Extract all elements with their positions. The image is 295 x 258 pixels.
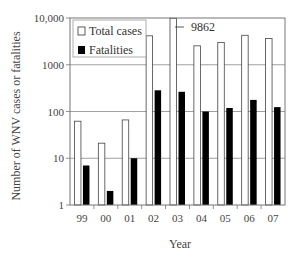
annotation-label: 9862 <box>191 20 215 34</box>
legend-label-total-cases: Total cases <box>89 24 142 38</box>
bar-fatalities <box>83 165 90 205</box>
bar-fatalities <box>202 112 209 206</box>
bar-total-cases <box>218 42 225 205</box>
bar-fatalities <box>131 158 138 205</box>
x-tick-label: 07 <box>268 212 280 224</box>
bar-total-cases <box>170 18 177 205</box>
y-tick-label: 10 <box>53 152 65 164</box>
bar-fatalities <box>226 108 233 205</box>
x-tick-label: 00 <box>100 212 112 224</box>
y-tick-label: 100 <box>48 106 65 118</box>
x-tick-label: 04 <box>196 212 208 224</box>
legend-swatch-total-cases <box>78 27 85 35</box>
bar-fatalities <box>274 107 281 205</box>
chart: 110100100010,000 990001020304050607 Tota… <box>0 0 295 258</box>
bar-total-cases <box>122 120 129 205</box>
legend: Total cases Fatalities <box>73 20 146 57</box>
bar-total-cases <box>266 39 273 205</box>
bar-fatalities <box>107 191 114 205</box>
bar-fatalities <box>250 100 257 205</box>
legend-label-fatalities: Fatalities <box>89 43 133 57</box>
x-tick-label: 05 <box>220 212 232 224</box>
annotation-9862: 9862 <box>175 20 215 34</box>
x-tick-label: 02 <box>148 212 159 224</box>
y-tick-label: 1000 <box>42 59 65 71</box>
x-axis: 990001020304050607 <box>76 205 279 224</box>
y-tick-label: 1 <box>59 199 65 211</box>
legend-swatch-fatalities <box>78 46 85 54</box>
x-tick-label: 03 <box>172 212 184 224</box>
bar-total-cases <box>98 143 105 205</box>
x-tick-label: 06 <box>244 212 256 224</box>
y-axis: 110100100010,000 <box>34 12 70 211</box>
bar-total-cases <box>74 121 81 205</box>
bar-total-cases <box>146 36 153 205</box>
bar-total-cases <box>194 46 201 205</box>
x-tick-label: 99 <box>76 212 88 224</box>
x-axis-title: Year <box>169 237 191 251</box>
y-tick-label: 10,000 <box>34 12 65 24</box>
x-tick-label: 01 <box>124 212 135 224</box>
bar-fatalities <box>155 90 162 205</box>
bar-total-cases <box>242 35 249 205</box>
bar-fatalities <box>179 92 186 205</box>
y-axis-title: Number of WNV cases or fatalities <box>9 31 23 201</box>
